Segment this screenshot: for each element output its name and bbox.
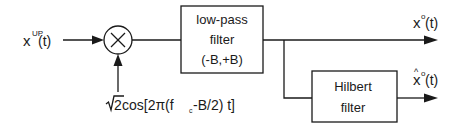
main-output-argument: (t) — [425, 15, 438, 31]
lowpass-label-line1: low-pass — [196, 12, 248, 27]
carrier-label: 2 cos[2π(f c -B/2) t] — [106, 96, 235, 114]
carrier-text-pre: cos[2π(f — [122, 97, 174, 113]
hilbert-branch-line — [284, 40, 312, 98]
lowpass-label-line3: (-B,+B) — [201, 52, 243, 67]
block-diagram: x UP (t) 2 cos[2π(f c -B/2) t] low-pass … — [0, 0, 462, 131]
hilbert-filter-block: Hilbert filter — [312, 71, 397, 122]
input-base: x — [23, 32, 31, 49]
input-argument: (t) — [38, 33, 51, 49]
hilbert-output-label: ^ x o (t) — [413, 67, 438, 88]
lowpass-filter-block: low-pass filter (-B,+B) — [181, 6, 263, 73]
carrier-text-post: -B/2) t] — [193, 97, 235, 113]
carrier-arrowhead — [114, 54, 123, 66]
lowpass-label-line2: filter — [210, 32, 235, 47]
input-signal-label: x UP (t) — [23, 29, 51, 49]
hilbert-output-argument: (t) — [425, 72, 438, 88]
hilbert-output-base: x — [413, 71, 421, 88]
sqrt-argument: 2 — [114, 97, 122, 113]
input-arrowhead — [92, 36, 104, 45]
main-output-label: x o (t) — [413, 12, 438, 31]
main-output-base: x — [413, 14, 421, 31]
hilbert-output-arrowhead — [424, 94, 438, 103]
mixer — [104, 26, 132, 54]
hilbert-label-line2: filter — [341, 100, 366, 115]
hilbert-label-line1: Hilbert — [334, 79, 372, 94]
main-output-arrowhead — [424, 36, 438, 45]
